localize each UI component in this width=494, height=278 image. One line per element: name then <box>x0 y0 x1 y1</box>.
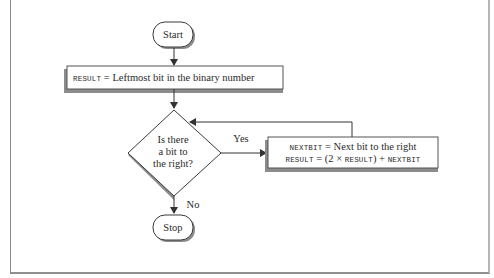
init-text: RESULT = Leftmost bit in the binary numb… <box>73 72 255 83</box>
no-label: No <box>187 199 200 210</box>
init-process-box: RESULT = Leftmost bit in the binary numb… <box>64 66 283 93</box>
init-code: RESULT <box>73 75 102 83</box>
stop-label: Stop <box>163 222 182 233</box>
result-code-b: RESULT <box>345 156 374 164</box>
decision-line-2: a bit to <box>158 146 187 157</box>
decision-line-1: Is there <box>157 134 189 145</box>
loop-process-box: NEXTBIT = Next bit to the right RESULT =… <box>265 137 438 172</box>
start-label: Start <box>163 29 183 40</box>
nextbit-code: NEXTBIT <box>290 144 323 152</box>
loop-line-1-text: = Next bit to the right <box>322 141 416 152</box>
decision-line-3: the right? <box>153 158 193 169</box>
decision-diamond: Is there a bit to the right? <box>128 110 221 200</box>
yes-label: Yes <box>233 133 248 144</box>
diagram-canvas: Start RESULT = Leftmost bit in the binar… <box>0 0 494 278</box>
result-code-a: RESULT <box>285 156 314 164</box>
flowchart: Start RESULT = Leftmost bit in the binar… <box>0 0 494 278</box>
nextbit-code-c: NEXTBIT <box>388 156 421 164</box>
stop-terminal: Stop <box>153 215 195 242</box>
init-desc: = Leftmost bit in the binary number <box>101 72 255 83</box>
arrow-loop-back <box>190 122 352 137</box>
loop-line-2-text-b: ) + <box>373 153 388 165</box>
loop-line-2-text-a: = (2 × <box>314 153 345 165</box>
start-terminal: Start <box>153 22 195 49</box>
